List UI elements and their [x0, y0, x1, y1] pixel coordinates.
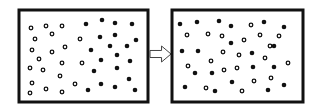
hollow-particle	[41, 68, 45, 72]
hollow-particle	[235, 66, 239, 70]
hollow-particle	[60, 90, 64, 94]
hollow-particle	[50, 32, 54, 36]
hollow-particle	[44, 87, 48, 91]
hollow-particle	[240, 89, 244, 93]
filled-particle	[217, 19, 222, 24]
hollow-particle	[78, 37, 82, 41]
hollow-particle	[60, 24, 64, 28]
filled-particle	[130, 22, 135, 27]
filled-particle	[229, 41, 234, 46]
right-arrow-icon	[150, 46, 171, 62]
filled-particle	[134, 38, 139, 43]
hollow-particle	[269, 76, 273, 80]
filled-particle	[89, 48, 94, 53]
filled-particle	[230, 80, 235, 85]
left-container	[19, 10, 148, 102]
filled-particle	[213, 89, 218, 94]
hollow-particle	[28, 91, 32, 95]
filled-particle	[272, 65, 277, 70]
filled-particle	[113, 85, 118, 90]
hollow-particle	[252, 79, 256, 83]
hollow-particle	[50, 50, 54, 54]
hollow-particle	[249, 23, 253, 27]
filled-particle	[193, 71, 198, 76]
hollow-particle	[204, 86, 208, 90]
hollow-particle	[185, 33, 189, 37]
filled-particle	[115, 66, 120, 71]
hollow-particle	[30, 81, 34, 85]
hollow-particle	[237, 53, 241, 57]
hollow-particle	[60, 61, 64, 65]
filled-particle	[125, 44, 130, 49]
filled-particle	[262, 20, 267, 25]
filled-particle	[84, 22, 89, 27]
hollow-particle	[221, 50, 225, 54]
hollow-particle	[44, 24, 48, 28]
filled-particle	[195, 20, 200, 25]
hollow-particle	[258, 33, 262, 37]
filled-particle	[98, 35, 103, 40]
filled-particle	[266, 88, 271, 93]
filled-particle	[272, 44, 277, 49]
hollow-particle	[58, 74, 62, 78]
hollow-particle	[242, 38, 246, 42]
hollow-particle	[286, 61, 290, 65]
hollow-particle	[73, 82, 77, 86]
hollow-particle	[209, 59, 213, 63]
filled-particle	[128, 59, 133, 64]
hollow-particle	[29, 26, 33, 30]
filled-particle	[180, 49, 185, 54]
filled-particle	[86, 88, 91, 93]
hollow-particle	[186, 64, 190, 68]
filled-particle	[108, 44, 113, 49]
filled-particle	[100, 18, 105, 23]
filled-particle	[99, 58, 104, 63]
hollow-particle	[30, 48, 34, 52]
hollow-particle	[28, 66, 32, 70]
mixing-diagram	[0, 0, 320, 112]
filled-particle	[115, 53, 120, 58]
filled-particle	[282, 83, 287, 88]
filled-particle	[210, 71, 215, 76]
hollow-particle	[277, 34, 281, 38]
filled-particle	[113, 21, 118, 26]
hollow-particle	[222, 68, 226, 72]
hollow-particle	[263, 56, 267, 60]
filled-particle	[92, 69, 97, 74]
filled-particle	[99, 82, 104, 87]
hollow-particle	[63, 45, 67, 49]
hollow-particle	[220, 34, 224, 38]
right-particles	[178, 19, 290, 94]
filled-particle	[251, 65, 256, 70]
filled-particle	[282, 25, 287, 30]
filled-particle	[250, 51, 255, 56]
hollow-particle	[37, 57, 41, 61]
filled-particle	[113, 33, 118, 38]
filled-particle	[178, 22, 183, 27]
hollow-particle	[268, 44, 272, 48]
filled-particle	[127, 77, 132, 82]
filled-particle	[133, 88, 138, 93]
filled-particle	[196, 49, 201, 54]
hollow-particle	[206, 32, 210, 36]
hollow-particle	[33, 37, 37, 41]
filled-particle	[183, 85, 188, 90]
hollow-particle	[80, 61, 84, 65]
filled-particle	[229, 24, 234, 29]
left-particles	[28, 18, 138, 95]
